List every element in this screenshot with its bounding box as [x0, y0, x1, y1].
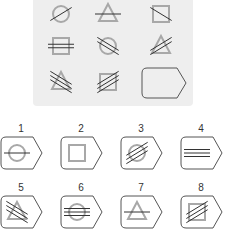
option-number: 8 [191, 182, 211, 193]
tag-outline [181, 196, 222, 228]
